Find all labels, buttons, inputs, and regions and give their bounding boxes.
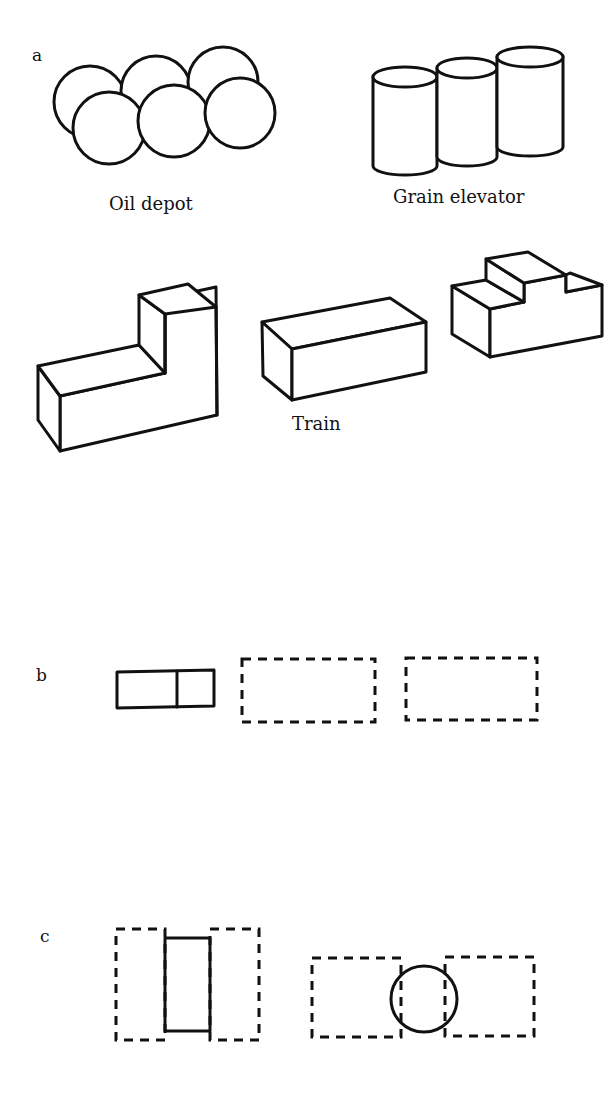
panel-b-drawing — [117, 658, 537, 722]
dashed-rectangle-2 — [406, 658, 537, 720]
silo-2-body — [437, 68, 497, 166]
solid-rectangle-center — [165, 938, 210, 1031]
oil-depot-label: Oil depot — [109, 193, 194, 214]
oil-depot-drawing — [54, 47, 275, 164]
tank-front-3 — [205, 78, 275, 148]
silo-3-body — [497, 57, 563, 156]
silo-2-top — [437, 58, 497, 78]
dashed-rectangle-left — [312, 958, 401, 1037]
panel-c-left-drawing — [116, 929, 259, 1040]
l-block-drawing — [38, 284, 217, 451]
tank-front-2 — [138, 85, 210, 157]
train-drawing — [262, 298, 426, 400]
tank-front-1 — [73, 92, 145, 164]
grain-elevator-label: Grain elevator — [393, 186, 525, 207]
panel-label-c: c — [40, 926, 50, 946]
solid-divided-rectangle — [117, 670, 214, 708]
silo-1-top — [373, 67, 437, 87]
train-label: Train — [292, 413, 341, 434]
figure-canvas: a Oil depot Grain elevator — [0, 0, 611, 1101]
silo-3-top — [497, 47, 563, 67]
silo-1-body — [373, 77, 437, 175]
dashed-rectangle-left — [116, 929, 165, 1040]
stepped-block-drawing — [452, 252, 602, 357]
grain-elevator-drawing — [373, 47, 563, 175]
dashed-rectangle-right — [210, 929, 259, 1040]
panel-label-b: b — [36, 665, 47, 685]
panel-label-a: a — [32, 45, 42, 65]
dashed-rectangle-1 — [242, 659, 375, 722]
panel-c-right-drawing — [312, 957, 534, 1037]
